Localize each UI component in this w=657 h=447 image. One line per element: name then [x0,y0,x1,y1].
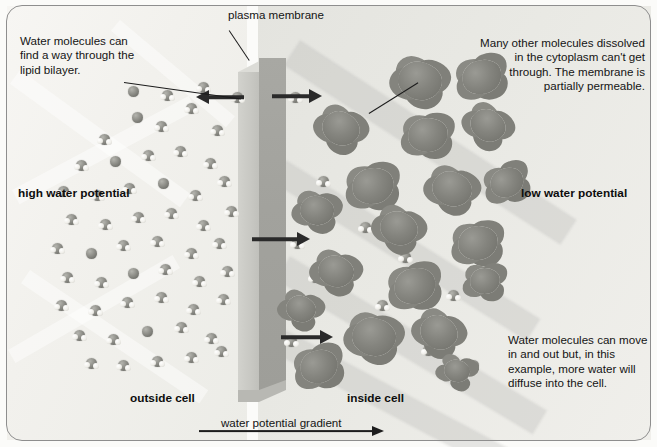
water-molecule [194,276,205,287]
ghost-text: potential to a region of [26,154,172,171]
water-potential-gradient-label: water potential gradient [221,416,342,429]
light-band [8,255,180,363]
water-molecule [292,238,303,249]
solute-molecule [375,206,422,251]
inside-cell-label: inside cell [347,391,404,405]
water-molecule [96,277,107,288]
water-molecule [52,243,63,254]
solute-callout-leader-line [368,82,418,114]
solute-molecule [442,357,473,385]
water-molecule [108,334,119,345]
solute-molecule [406,115,450,155]
ghost-text: and cell surface membranes [38,10,215,27]
water-molecule [397,74,408,85]
solute-molecule [295,344,342,389]
osmosis-diagram-figure: and cell surface membraneswater moves ac… [0,0,657,447]
membrane-bottom-face [238,380,298,406]
water-molecule [143,150,154,161]
solute-molecule [349,314,399,359]
water-molecule [205,158,216,169]
plasma-membrane-label: plasma membrane [228,8,324,21]
solute-molecule [317,106,365,152]
water-molecule [110,156,121,167]
ghost-text: animal cells may burst [394,414,538,431]
water-molecule [286,336,297,347]
water-molecule [142,326,153,337]
water-molecule [226,206,237,217]
water-molecule [128,86,139,97]
ghost-text: inside the cell [430,282,519,299]
water-molecule [152,356,163,367]
water-molecule [430,136,441,147]
water-molecule [219,176,230,187]
ghost-text: across a partially [20,272,129,289]
light-band [21,270,208,403]
water-molecule [212,125,223,136]
ghost-text: than pure water [418,152,517,169]
water-molecule [186,352,197,363]
solute-molecule [348,163,397,208]
water-molecule [133,212,144,223]
ghost-text: region of higher water [24,132,167,149]
ghost-text: Water potential is [22,348,135,365]
water-molecule [156,292,167,303]
water-molecule [156,121,167,132]
water-molecule [132,112,143,123]
water-molecule [176,322,187,333]
water-molecule [310,272,321,283]
water-molecule [190,190,201,201]
water-molecule [214,238,225,249]
ghost-text: become turgid [404,392,495,409]
ghost-text: value of zero kPa [28,414,139,431]
water-molecule [290,92,301,103]
shadow-band [274,330,516,447]
ghost-text: and swell; plant cells [392,370,527,387]
membrane-top-face [238,50,308,80]
ghost-text: permeable membrane [22,294,159,311]
water-molecule [175,146,186,157]
solute-molecule [415,309,463,355]
water-molecule [158,178,169,189]
ghost-text: the solute particles [406,176,526,193]
membrane-front-face [238,72,259,390]
ghost-text: pure water has a [24,392,128,409]
net-movement-callout: Water molecules can move in and out but,… [508,333,657,391]
water-out-arrow [196,90,244,104]
water-molecule [216,346,227,357]
shadow-band [276,256,548,435]
water-molecule [188,304,199,315]
ghost-text: has a lower water potential [392,130,564,147]
water-molecule [86,248,97,259]
water-in-arrow-mid [252,232,310,246]
water-molecule [90,305,101,316]
water-molecule [206,333,217,344]
solute-molecule [428,167,477,212]
water-molecule [377,300,388,311]
water-molecule [76,160,87,171]
ghost-text: down a gradient [26,316,129,333]
water-molecule [198,220,209,231]
water-molecule [318,176,329,187]
ghost-text: more concentrated [412,258,530,275]
water-molecule [346,132,357,143]
water-in-arrow-low [281,330,333,344]
low-water-potential-label: low water potential [521,186,627,200]
solutes-blocked-callout: Many other molecules dissolved in the cy… [449,36,645,94]
water-through-bilayer-callout: Water molecules can find a way through t… [20,34,190,77]
water-molecule [423,345,434,356]
solute-molecule [389,262,440,309]
water-molecule [74,330,85,341]
water-molecule [128,268,139,279]
water-molecule [222,266,233,277]
water-callout-leader-line [124,82,241,100]
water-molecule [166,208,177,219]
shadow-band [272,160,540,341]
ghost-text: the solution becomes [400,236,535,253]
water-molecule [360,222,371,233]
water-molecule [152,236,163,247]
solute-molecule [283,292,320,326]
solute-molecule [395,58,446,104]
water-molecule [56,300,67,311]
water-molecule [66,214,77,225]
water-molecule [162,90,173,101]
